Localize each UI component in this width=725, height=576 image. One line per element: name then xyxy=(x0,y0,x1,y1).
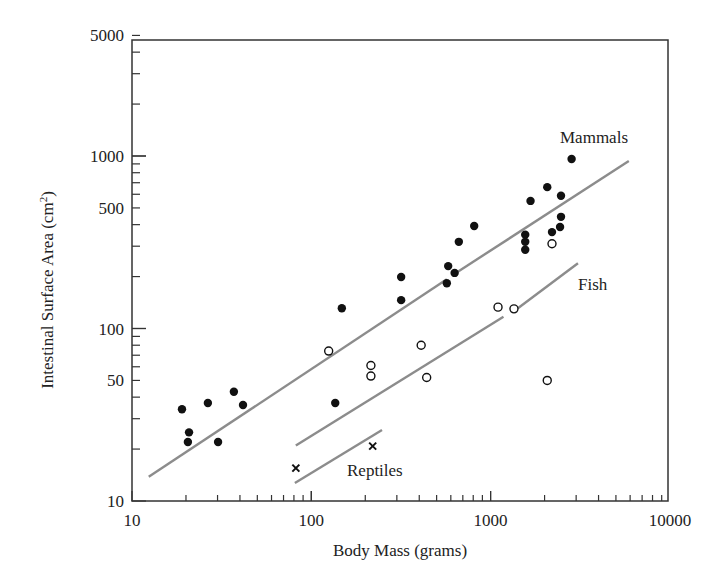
fit-line-fish xyxy=(518,263,578,308)
point-mammals xyxy=(443,279,451,287)
plot-border xyxy=(132,40,668,501)
point-mammals xyxy=(521,238,529,246)
point-fish xyxy=(543,376,551,384)
point-reptiles xyxy=(369,443,376,450)
point-mammals xyxy=(557,213,565,221)
y-axis-title-end: ) xyxy=(38,191,57,197)
fit-line-mammals xyxy=(149,279,447,477)
point-mammals xyxy=(214,438,222,446)
point-fish xyxy=(367,372,375,380)
fit-line-fish xyxy=(296,317,504,446)
point-mammals xyxy=(184,438,192,446)
series-label-reptiles: Reptiles xyxy=(347,461,403,480)
y-tick-label: 100 xyxy=(99,320,125,339)
data-points xyxy=(178,155,576,472)
x-tick-label: 10000 xyxy=(649,511,692,530)
x-tick-label: 10 xyxy=(124,511,141,530)
point-fish xyxy=(494,303,502,311)
point-mammals xyxy=(557,192,565,200)
point-mammals xyxy=(543,183,551,191)
point-mammals xyxy=(567,155,575,163)
series-label-mammals: Mammals xyxy=(560,128,628,147)
point-mammals xyxy=(521,230,529,238)
point-mammals xyxy=(444,262,452,270)
point-mammals xyxy=(450,269,458,277)
point-fish xyxy=(423,373,431,381)
point-mammals xyxy=(331,399,339,407)
y-tick-label: 5000 xyxy=(90,26,124,45)
point-mammals xyxy=(204,399,212,407)
point-fish xyxy=(367,362,375,370)
fit-lines xyxy=(149,161,629,483)
point-fish xyxy=(325,347,333,355)
point-reptiles xyxy=(292,465,299,472)
point-mammals xyxy=(470,222,478,230)
point-mammals xyxy=(397,296,405,304)
point-mammals xyxy=(338,304,346,312)
point-mammals xyxy=(548,228,556,236)
scatter-chart: 10100100010000105010050010005000 Mammals… xyxy=(0,0,725,576)
point-mammals xyxy=(239,401,247,409)
plot-frame xyxy=(132,40,668,501)
point-mammals xyxy=(178,405,186,413)
series-label-fish: Fish xyxy=(578,275,608,294)
y-tick-label: 50 xyxy=(107,371,124,390)
point-mammals xyxy=(230,388,238,396)
x-axis-title: Body Mass (grams) xyxy=(333,541,467,560)
point-fish xyxy=(510,305,518,313)
point-fish xyxy=(548,240,556,248)
y-tick-label: 10 xyxy=(107,492,124,511)
point-mammals xyxy=(455,238,463,246)
y-axis-title-main: Intestinal Surface Area (cm xyxy=(38,202,57,388)
point-mammals xyxy=(185,428,193,436)
point-mammals xyxy=(521,246,529,254)
y-tick-label: 1000 xyxy=(90,147,124,166)
x-tick-label: 1000 xyxy=(474,511,508,530)
y-axis-title: Intestinal Surface Area (cm2) xyxy=(37,191,57,389)
point-mammals xyxy=(556,223,564,231)
y-tick-label: 500 xyxy=(99,199,125,218)
point-fish xyxy=(417,341,425,349)
x-tick-label: 100 xyxy=(299,511,325,530)
point-mammals xyxy=(526,197,534,205)
point-mammals xyxy=(397,273,405,281)
fit-line-mammals xyxy=(457,161,629,272)
